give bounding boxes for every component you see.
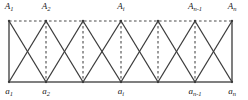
label-base-letter: A [228, 1, 234, 11]
figure-container: A1A2AiAn-1Ana1a2aian-1an [0, 0, 248, 100]
bottom-vertex-dot [8, 81, 10, 83]
bottom-vertex-label-3: ai [118, 87, 124, 96]
label-subscript: 1 [10, 5, 13, 12]
top-vertex-dot [8, 20, 10, 22]
top-vertex-dot [120, 20, 122, 22]
label-base-letter: a [42, 86, 47, 96]
label-subscript: 1 [10, 90, 13, 97]
bottom-vertex-dot [45, 81, 47, 83]
label-subscript: i [123, 5, 125, 12]
label-subscript: i [122, 90, 124, 97]
top-vertex-label-1: A1 [5, 2, 14, 11]
top-vertex-dot [45, 20, 47, 22]
bottom-vertex-dot [157, 81, 159, 83]
label-base-letter: a [118, 86, 123, 96]
label-subscript: n [233, 5, 236, 12]
top-vertex-dot [231, 20, 233, 22]
top-vertex-label-4: An-1 [188, 2, 202, 11]
label-subscript: n-1 [193, 90, 202, 97]
label-base-letter: A [5, 1, 11, 11]
label-base-letter: a [228, 86, 233, 96]
label-base-letter: a [5, 86, 10, 96]
label-base-letter: a [188, 86, 193, 96]
top-vertex-dot [82, 20, 84, 22]
interior-vertical-edges [46, 21, 195, 82]
bottom-vertex-dot [194, 81, 196, 83]
bottom-vertex-dot [120, 81, 122, 83]
bottom-vertex-dot [231, 81, 233, 83]
top-vertex-label-5: An [228, 2, 237, 11]
bottom-vertex-label-1: a1 [5, 87, 13, 96]
label-subscript: 2 [47, 90, 50, 97]
bottom-vertex-dot [82, 81, 84, 83]
label-base-letter: A [42, 1, 48, 11]
label-base-letter: A [188, 1, 194, 11]
bottom-vertex-label-4: an-1 [188, 87, 201, 96]
label-base-letter: A [117, 1, 123, 11]
top-vertex-dot [194, 20, 196, 22]
top-vertex-label-3: Ai [117, 2, 124, 11]
label-subscript: n [233, 90, 236, 97]
lattice-graph-svg [0, 0, 248, 100]
top-vertex-label-2: A2 [42, 2, 51, 11]
label-subscript: 2 [47, 5, 50, 12]
top-vertex-dot [157, 20, 159, 22]
label-subscript: n-1 [193, 5, 202, 12]
bottom-vertex-label-5: an [228, 87, 236, 96]
bottom-vertex-label-2: a2 [42, 87, 50, 96]
